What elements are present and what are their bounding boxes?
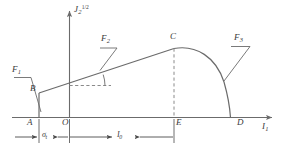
point-label-b: B [30,84,36,93]
surface-label-f2: F2 [101,34,110,44]
yield-surface-figure: J21/2 I1 A B C D E O F1 F2 F3 σt I0 [0,0,287,155]
f3-leader-line [224,47,250,82]
y-axis-label: J21/2 [74,5,89,15]
x-axis-label: I1 [262,122,268,132]
f2-leader-line [100,48,117,71]
point-label-d: D [237,118,244,127]
point-label-c: C [170,32,176,41]
point-label-a: A [27,118,33,127]
dimension-label-sigma-t: σt [42,131,47,140]
slope-angle-arc [103,75,105,86]
f1-leader-line [14,78,41,113]
surface-f3-path [174,48,231,118]
surface-f2-path [39,49,174,94]
point-label-e: E [176,118,182,127]
surface-label-f3: F3 [234,33,243,43]
surface-label-f1: F1 [12,65,21,75]
point-label-o: O [62,118,69,127]
dimension-label-i0: I0 [117,131,122,140]
